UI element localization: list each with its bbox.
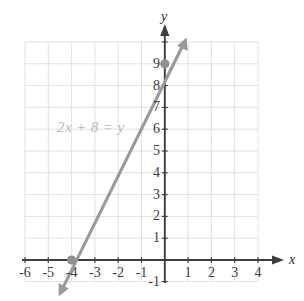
y-tick-label: 6	[153, 122, 160, 136]
y-tick-label: 3	[153, 188, 160, 202]
x-tick-label: -1	[136, 266, 148, 280]
x-axis-label: x	[289, 253, 295, 267]
x-tick-label: 3	[231, 266, 238, 280]
x-tick-label: -3	[89, 266, 101, 280]
x-tick-label: -6	[19, 266, 31, 280]
y-axis-label: y	[161, 10, 167, 24]
y-tick-label: 7	[153, 100, 160, 114]
x-tick-label: 4	[255, 266, 262, 280]
y-tick-label: 8	[153, 79, 160, 93]
x-axis	[22, 255, 284, 264]
equation-annotation: 2x + 8 = y	[57, 120, 125, 135]
y-tick-label: -1	[148, 275, 160, 289]
y-tick-label: 4	[153, 166, 160, 180]
x-tick-label: -5	[42, 266, 54, 280]
x-tick-label: 2	[208, 266, 215, 280]
y-tick-label: 9	[153, 57, 160, 71]
coordinate-plane-svg	[0, 0, 304, 301]
y-tick-label: 2	[153, 209, 160, 223]
x-tick-label: 1	[185, 266, 192, 280]
x-tick-label: -4	[66, 266, 78, 280]
function-line	[59, 38, 188, 297]
y-tick-label: 5	[153, 144, 160, 158]
grid-lines	[25, 42, 258, 282]
graph-figure: 2x + 8 = y y x -6 -5 -4 -3 -2 -1 1 2 3 4…	[0, 0, 304, 301]
y-tick-label: 1	[153, 231, 160, 245]
x-tick-label: -2	[112, 266, 124, 280]
